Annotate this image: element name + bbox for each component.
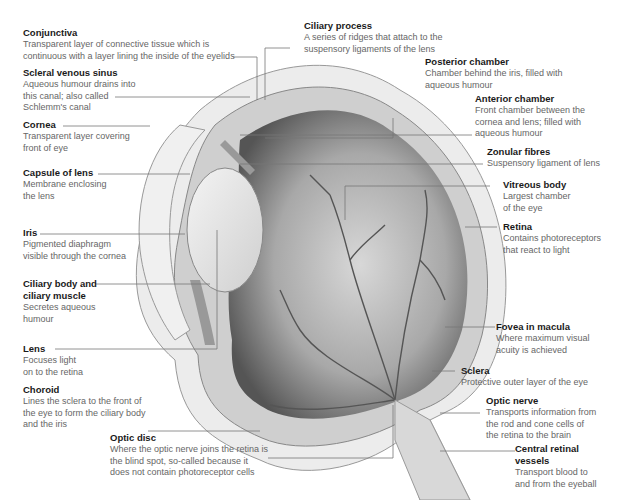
label-cornea: Cornea Transparent layer covering front … bbox=[23, 119, 130, 154]
label-lens: Lens Focuses light on to the retina bbox=[23, 343, 83, 378]
label-conjunctiva: Conjunctiva Transparent layer of connect… bbox=[23, 27, 235, 62]
label-vitreous-body: Vitreous body Largest chamber of the eye bbox=[503, 179, 571, 214]
label-ciliary-body: Ciliary body and ciliary muscle Secretes… bbox=[23, 278, 97, 325]
label-fovea-in-macula: Fovea in macula Where maximum visual acu… bbox=[496, 321, 590, 356]
label-posterior-chamber: Posterior chamber Chamber behind the iri… bbox=[425, 56, 563, 91]
label-anterior-chamber: Anterior chamber Front chamber between t… bbox=[475, 93, 585, 140]
label-zonular-fibres: Zonular fibres Suspensory ligament of le… bbox=[487, 146, 600, 170]
label-optic-nerve: Optic nerve Transports information from … bbox=[486, 395, 596, 442]
label-optic-disc: Optic disc Where the optic nerve joins t… bbox=[110, 432, 268, 479]
label-ciliary-process: Ciliary process A series of ridges that … bbox=[304, 20, 443, 55]
label-central-retinal-vessels: Central retinal vessels Transport blood … bbox=[515, 443, 597, 490]
label-capsule-of-lens: Capsule of lens Membrane enclosing the l… bbox=[23, 167, 107, 202]
label-scleral-venous-sinus: Scleral venous sinus Aqueous humour drai… bbox=[23, 67, 136, 114]
lens-shape bbox=[187, 168, 263, 292]
label-iris: Iris Pigmented diaphragm visible through… bbox=[23, 227, 126, 262]
label-retina: Retina Contains photoreceptors that reac… bbox=[503, 221, 601, 256]
label-choroid: Choroid Lines the sclera to the front of… bbox=[23, 384, 146, 431]
label-sclera: Sclera Protective outer layer of the eye bbox=[461, 365, 588, 389]
